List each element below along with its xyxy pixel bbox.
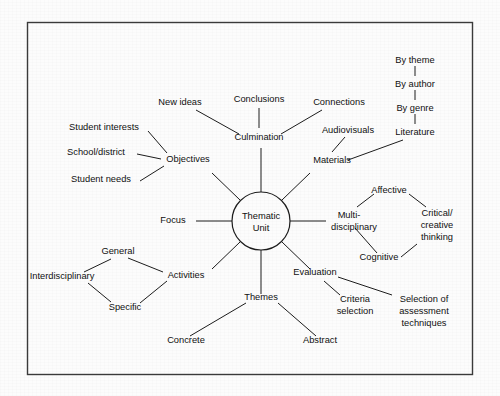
edge-multidisciplinary-affective [357,194,374,207]
concept-map-canvas: Thematic Unit Conclusions New ideas Conn… [0,0,500,396]
edge-themes-concrete [190,303,246,336]
edge-materials-audiovisuals [332,137,345,152]
node-by-author: By author [395,79,435,89]
node-affective: Affective [371,185,407,195]
node-interdisciplinary: Interdisciplinary [30,271,95,281]
edge-culmination-newideas [196,110,239,134]
node-specific: Specific [109,302,142,312]
node-critical-line3: thinking [421,232,453,242]
edge-activities-general [128,258,163,272]
node-audiovisuals: Audiovisuals [322,125,375,135]
node-evaluation: Evaluation [293,267,336,277]
node-criteria-line1: Criteria [340,294,371,304]
node-selection-line2: assessment [399,306,449,316]
node-selection-line1: Selection of [400,294,449,304]
node-multidisciplinary-line1: Multi- [338,210,361,220]
concept-map-diagram: Thematic Unit Conclusions New ideas Conn… [0,0,500,396]
node-abstract: Abstract [303,335,338,345]
node-materials: Materials [313,155,351,165]
node-by-theme: By theme [395,55,434,65]
node-critical-line1: Critical/ [422,208,453,218]
node-general: General [101,246,134,256]
hub-circle [232,192,290,250]
edge-affective-critical [409,194,426,207]
edge-interdisciplinary-specific [88,283,111,302]
edge-evaluation-selection [338,277,392,295]
edge-hub-evaluation [282,242,310,269]
node-student-interests: Student interests [69,122,139,132]
edge-objectives-studentinterests [148,131,167,153]
node-objectives: Objectives [166,154,210,164]
node-connections: Connections [313,97,365,107]
node-school-district: School/district [67,147,125,157]
node-activities: Activities [168,270,205,280]
node-themes: Themes [244,292,278,302]
node-culmination: Culmination [234,132,283,142]
node-multidisciplinary-line2: disciplinary [331,222,377,232]
node-student-needs: Student needs [71,174,131,184]
node-selection-line3: techniques [402,318,447,328]
node-literature: Literature [395,127,434,137]
node-criteria-line2: selection [337,306,374,316]
edge-objectives-studentneeds [140,166,164,181]
node-conclusions: Conclusions [234,94,285,104]
edge-hub-materials [282,173,310,200]
node-critical-line2: creative [421,220,454,230]
node-cognitive: Cognitive [360,252,399,262]
edge-themes-abstract [278,303,316,336]
edge-culmination-connections [281,110,322,134]
edge-evaluation-criteria [324,281,340,295]
hub-label-line2: Unit [253,223,270,233]
edge-objectives-schooldistrict [137,154,161,159]
edge-materials-literature [348,140,403,160]
hub-label-line1: Thematic [242,211,281,221]
node-new-ideas: New ideas [158,97,202,107]
edge-hub-activities [212,242,240,269]
node-by-genre: By genre [396,103,433,113]
edge-activities-specific [140,281,167,303]
edge-general-interdisciplinary [84,259,111,272]
node-concrete: Concrete [167,335,205,345]
edge-hub-objectives [212,173,240,200]
node-focus: Focus [160,215,186,225]
edge-cognitive-critical [401,244,417,257]
